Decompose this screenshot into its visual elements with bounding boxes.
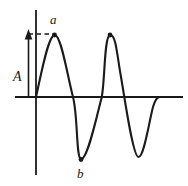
crest-label: a xyxy=(50,13,57,26)
sine-wave-figure: A a b xyxy=(0,0,188,186)
trough-label: b xyxy=(77,167,84,180)
dot-marker-icon xyxy=(52,33,57,38)
dot-marker-icon xyxy=(108,33,113,38)
amplitude-label: A xyxy=(13,70,22,84)
figure-canvas xyxy=(0,0,188,186)
dot-marker-icon xyxy=(79,157,84,162)
